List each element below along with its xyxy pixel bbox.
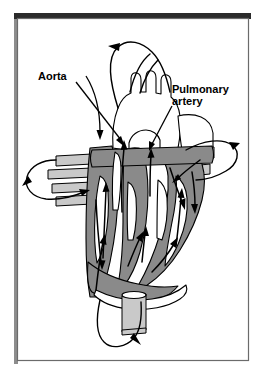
pulmonary-vein-stub-2 [48,168,92,179]
label-pulmonary-artery-line2: artery [172,95,203,107]
heart-diagram-svg: Aorta Pulmonary artery [0,0,264,385]
mitral-valve-leaflet [127,182,136,240]
pulmonary-vein-stub-1 [56,154,92,166]
aortic-outflow-channel [112,152,121,210]
vena-cava-tube [122,294,146,332]
vena-cava-lumen [122,292,146,299]
figure-root: Aorta Pulmonary artery [0,0,264,385]
label-pulmonary-artery-line1: Pulmonary [172,83,230,95]
inferior-vena-cava [122,292,146,336]
label-aorta: Aorta [38,70,68,82]
